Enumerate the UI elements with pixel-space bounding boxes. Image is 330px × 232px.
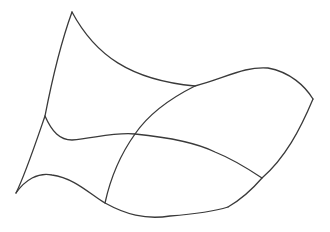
bottom-boundary-curve: [16, 174, 228, 217]
surface-patch-diagram: [0, 0, 330, 232]
middle-v-curve: [105, 86, 195, 203]
middle-u-curve: [45, 116, 262, 178]
right-boundary-curve: [228, 99, 313, 207]
left-boundary-curve: [16, 12, 72, 193]
diagram-svg: [0, 0, 330, 232]
top-boundary-curve: [72, 12, 313, 99]
